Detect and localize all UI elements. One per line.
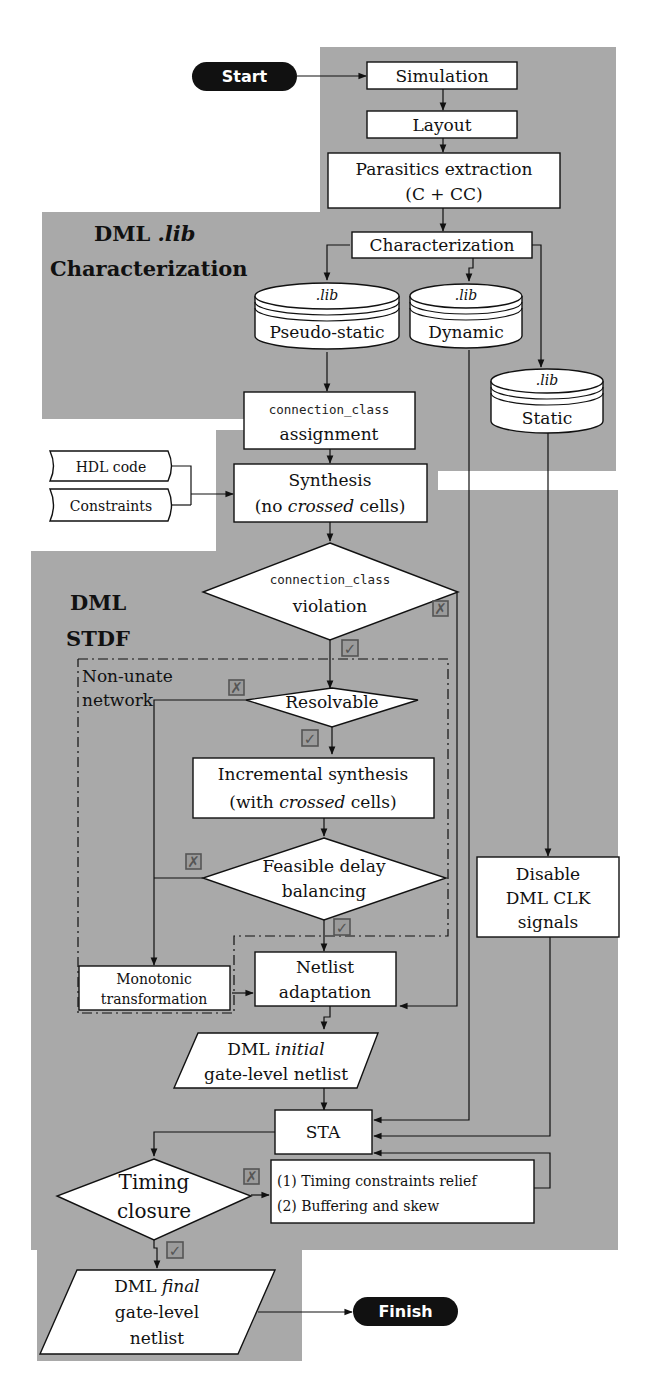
- no-mark-icon: ✗: [229, 679, 244, 697]
- svg-text:Dynamic: Dynamic: [428, 322, 503, 342]
- region-title-stdf-line2: STDF: [66, 626, 130, 651]
- svg-text:Disable: Disable: [516, 864, 580, 884]
- flowchart: DML .lib Characterization DML STDF: [0, 0, 649, 1389]
- svg-text:✗: ✗: [230, 679, 243, 697]
- svg-text:connection_class: connection_class: [270, 572, 390, 587]
- disable-dml-clk-signals-box[interactable]: Disable DML CLK signals: [477, 857, 619, 937]
- svg-text:closure: closure: [117, 1199, 191, 1223]
- svg-text:(with crossed cells): (with crossed cells): [229, 792, 396, 812]
- svg-text:Feasible delay: Feasible delay: [262, 856, 386, 876]
- netlist-adaptation-box[interactable]: Netlist adaptation: [255, 952, 396, 1006]
- no-mark-icon: ✗: [186, 853, 201, 871]
- svg-text:connection_class: connection_class: [269, 402, 389, 417]
- initial-gate-level-netlist-data[interactable]: DML initial gate-level netlist: [174, 1033, 378, 1088]
- svg-text:Synthesis: Synthesis: [289, 470, 372, 490]
- svg-text:✗: ✗: [434, 600, 447, 618]
- svg-text:violation: violation: [292, 596, 367, 616]
- svg-text:Netlist: Netlist: [296, 957, 354, 977]
- svg-text:Monotonic: Monotonic: [116, 971, 192, 987]
- characterization-box[interactable]: Characterization: [352, 232, 532, 258]
- svg-text:HDL code: HDL code: [76, 459, 147, 475]
- svg-text:DML initial: DML initial: [227, 1039, 324, 1059]
- svg-text:Timing: Timing: [119, 1170, 190, 1194]
- yes-mark-icon: ✓: [302, 730, 318, 748]
- lib-static-cylinder[interactable]: .lib Static: [491, 369, 603, 433]
- svg-text:(1) Timing constraints relief: (1) Timing constraints relief: [277, 1173, 478, 1189]
- svg-text:Incremental synthesis: Incremental synthesis: [218, 764, 408, 784]
- svg-text:DML CLK: DML CLK: [506, 888, 591, 908]
- svg-text:gate-level: gate-level: [115, 1302, 199, 1322]
- region-title-characterization-line2: Characterization: [50, 256, 248, 281]
- svg-text:Static: Static: [522, 408, 572, 428]
- svg-text:adaptation: adaptation: [279, 982, 372, 1002]
- svg-text:(no crossed cells): (no crossed cells): [255, 496, 406, 516]
- svg-text:.lib: .lib: [536, 372, 558, 388]
- svg-text:assignment: assignment: [280, 424, 379, 444]
- sta-box[interactable]: STA: [275, 1110, 372, 1154]
- monotonic-transformation-box[interactable]: Monotonic transformation: [79, 966, 230, 1010]
- svg-text:balancing: balancing: [282, 881, 366, 901]
- svg-text:Layout: Layout: [412, 115, 471, 135]
- start-terminal[interactable]: Start: [192, 62, 297, 91]
- region-title-stdf-line1: DML: [70, 590, 126, 615]
- svg-text:✗: ✗: [245, 1168, 258, 1186]
- hdl-code-input[interactable]: HDL code: [50, 451, 172, 481]
- lib-pseudo-static-cylinder[interactable]: .lib Pseudo-static: [255, 283, 399, 349]
- svg-text:✓: ✓: [344, 640, 357, 658]
- svg-text:.lib: .lib: [455, 287, 477, 303]
- yes-mark-icon: ✓: [342, 640, 358, 658]
- svg-text:Pseudo-static: Pseudo-static: [269, 322, 384, 342]
- layout-box[interactable]: Layout: [367, 111, 517, 138]
- svg-text:✓: ✓: [304, 730, 317, 748]
- yes-mark-icon: ✓: [167, 1242, 183, 1260]
- svg-text:STA: STA: [306, 1122, 341, 1142]
- incremental-synthesis-box[interactable]: Incremental synthesis (with crossed cell…: [193, 758, 434, 818]
- svg-text:Simulation: Simulation: [395, 66, 488, 86]
- non-unate-label-line1: Non-unate: [82, 666, 173, 686]
- constraints-input[interactable]: Constraints: [50, 489, 172, 521]
- yes-mark-icon: ✓: [334, 919, 350, 937]
- svg-text:Parasitics extraction: Parasitics extraction: [356, 159, 533, 179]
- svg-text:Constraints: Constraints: [70, 498, 152, 514]
- finish-terminal[interactable]: Finish: [353, 1297, 458, 1326]
- svg-text:signals: signals: [518, 912, 578, 932]
- svg-text:✓: ✓: [336, 919, 349, 937]
- svg-text:netlist: netlist: [130, 1328, 184, 1348]
- simulation-box[interactable]: Simulation: [367, 62, 517, 89]
- svg-text:Resolvable: Resolvable: [285, 692, 378, 712]
- svg-text:transformation: transformation: [101, 991, 207, 1007]
- svg-text:✗: ✗: [187, 853, 200, 871]
- final-gate-level-netlist-data[interactable]: DML final gate-level netlist: [40, 1270, 275, 1354]
- connection-class-assignment-box[interactable]: connection_class assignment: [244, 392, 415, 449]
- svg-text:✓: ✓: [169, 1242, 182, 1260]
- svg-text:Finish: Finish: [378, 1302, 432, 1321]
- no-mark-icon: ✗: [244, 1168, 259, 1186]
- svg-text:gate-level netlist: gate-level netlist: [204, 1064, 348, 1084]
- svg-text:Characterization: Characterization: [370, 235, 515, 255]
- region-title-characterization-line1: DML .lib: [94, 221, 196, 246]
- synthesis-box[interactable]: Synthesis (no crossed cells): [234, 464, 427, 522]
- non-unate-label-line2: network: [82, 690, 154, 710]
- svg-text:(2) Buffering and skew: (2) Buffering and skew: [277, 1198, 439, 1214]
- svg-text:.lib: .lib: [316, 287, 338, 303]
- svg-text:(C + CC): (C + CC): [405, 184, 482, 204]
- svg-text:DML final: DML final: [114, 1276, 200, 1296]
- timing-relief-box[interactable]: (1) Timing constraints relief (2) Buffer…: [271, 1160, 534, 1223]
- no-mark-icon: ✗: [433, 600, 448, 618]
- parasitics-extraction-box[interactable]: Parasitics extraction (C + CC): [328, 153, 560, 208]
- svg-text:Start: Start: [222, 67, 268, 86]
- lib-dynamic-cylinder[interactable]: .lib Dynamic: [410, 284, 522, 348]
